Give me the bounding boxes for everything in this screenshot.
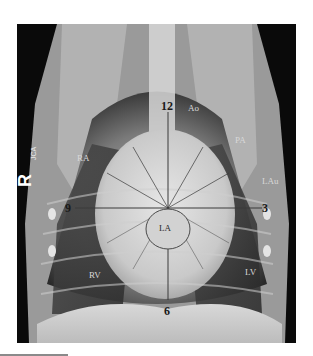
radiograph-image [17,24,296,343]
label-left-auricle: LAu [262,177,279,186]
side-marker-initials: JCA [30,147,37,160]
clock-label-3: 3 [262,202,268,214]
label-left-atrium: LA [159,224,171,233]
clock-label-6: 6 [164,305,170,317]
label-right-ventricle: RV [89,271,101,280]
clock-label-9: 9 [65,202,71,214]
label-right-atrium: RA [77,154,90,163]
clock-label-12: 12 [161,100,173,112]
side-marker-r: R [17,174,36,187]
thoracic-radiograph: R JCA 12 3 6 9 Ao PA LAu RA LA RV LV [17,24,296,343]
label-pulmonary-artery: PA [235,136,246,145]
label-aorta: Ao [188,104,199,113]
label-left-ventricle: LV [245,268,256,277]
